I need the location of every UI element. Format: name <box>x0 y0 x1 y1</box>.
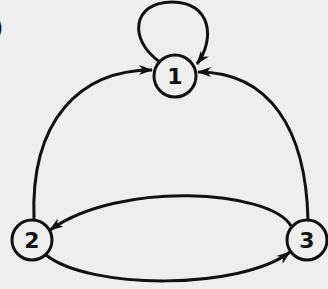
edge-3-to-2 <box>50 196 291 230</box>
node-3: 3 <box>287 220 327 260</box>
node-1: 1 <box>154 55 196 97</box>
diagram-svg: ) 1 2 3 <box>0 0 328 289</box>
node-2: 2 <box>12 220 52 260</box>
node-2-label: 2 <box>24 228 39 253</box>
node-3-label: 3 <box>299 228 314 253</box>
edge-2-to-1 <box>34 70 152 220</box>
panel-label: ) <box>0 14 3 42</box>
node-1-label: 1 <box>167 64 182 89</box>
state-diagram: ) 1 2 3 <box>0 0 328 289</box>
edge-2-to-3 <box>46 252 290 281</box>
